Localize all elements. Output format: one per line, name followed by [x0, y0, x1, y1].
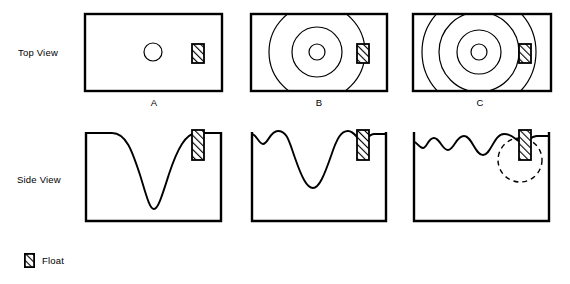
wave-ring-b-2	[292, 27, 342, 77]
panel-letter-b: B	[309, 97, 329, 108]
legend-label-float: Float	[42, 255, 64, 266]
diagram-canvas	[0, 0, 570, 284]
float-a-side	[192, 130, 204, 160]
float-a-top	[192, 44, 204, 63]
panel-a-top-view	[85, 14, 222, 91]
wave-ring-b-3	[269, 4, 365, 100]
wave-float-diagram: Top View Side View	[0, 0, 570, 284]
panel-c-side-view	[414, 130, 549, 221]
legend: Float	[24, 253, 64, 268]
wave-ring-c-3	[439, 12, 519, 92]
wave-ring-c-2	[457, 30, 501, 74]
float-c-top	[519, 44, 531, 63]
panel-letter-c: C	[470, 97, 490, 108]
hatched-rectangle-icon	[24, 253, 35, 268]
panel-b-side-view	[252, 130, 386, 221]
panel-a-side-view	[86, 130, 221, 221]
panel-b-top-view	[251, 4, 387, 100]
wave-ring-c-1	[471, 44, 487, 60]
float-b-top	[357, 44, 369, 63]
panel-c-top-view	[413, 0, 551, 109]
float-c-side	[519, 130, 531, 160]
panel-letter-a: A	[144, 97, 164, 108]
float-b-side	[357, 130, 369, 160]
wave-ring-a-1	[144, 43, 162, 61]
wave-ring-b-1	[309, 44, 325, 60]
